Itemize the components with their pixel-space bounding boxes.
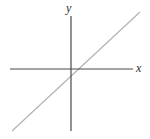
y-axis-label: y	[66, 2, 71, 14]
x-axis-label: x	[136, 62, 141, 74]
coordinate-plane-plot	[0, 0, 150, 139]
line-graph-figure: y x	[0, 0, 150, 139]
